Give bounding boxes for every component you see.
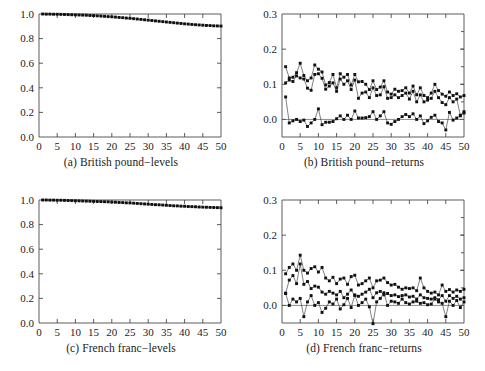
data-point-marker xyxy=(291,298,294,301)
data-point-marker xyxy=(433,114,436,117)
data-point-marker xyxy=(125,17,128,20)
data-point-marker xyxy=(448,288,451,291)
data-point-marker xyxy=(448,300,451,303)
data-point-marker xyxy=(313,118,316,121)
data-point-marker xyxy=(295,300,298,303)
data-point-marker xyxy=(361,80,364,83)
data-point-marker xyxy=(368,288,371,291)
data-point-marker xyxy=(121,201,124,204)
data-point-marker xyxy=(437,293,440,296)
data-point-marker xyxy=(321,266,324,269)
data-point-marker xyxy=(412,286,415,289)
axis-frame xyxy=(282,200,464,323)
data-point-marker xyxy=(423,301,426,304)
data-point-marker xyxy=(342,83,345,86)
data-point-marker xyxy=(216,206,219,209)
data-point-marker xyxy=(328,81,331,84)
data-point-marker xyxy=(364,91,367,94)
data-point-marker xyxy=(397,118,400,121)
data-point-marker xyxy=(310,121,313,124)
data-point-marker xyxy=(339,72,342,75)
data-point-marker xyxy=(317,107,320,110)
data-point-marker xyxy=(375,300,378,303)
data-point-marker xyxy=(317,271,320,274)
data-point-marker xyxy=(382,85,385,88)
data-point-marker xyxy=(353,110,356,113)
data-point-marker xyxy=(63,199,66,202)
data-point-marker xyxy=(408,296,411,299)
data-point-marker xyxy=(99,200,102,203)
data-point-marker xyxy=(350,88,353,91)
data-point-marker xyxy=(302,119,305,122)
data-point-marker xyxy=(52,13,55,16)
data-point-marker xyxy=(408,92,411,95)
data-point-marker xyxy=(430,92,433,95)
data-point-marker xyxy=(74,13,77,16)
plot-a: 051015202530354045500.00.20.40.60.81.0 xyxy=(0,0,242,158)
data-point-marker xyxy=(103,200,106,203)
data-point-marker xyxy=(368,115,371,118)
data-point-marker xyxy=(295,118,298,121)
data-point-marker xyxy=(150,203,153,206)
data-point-marker xyxy=(198,206,201,209)
data-point-marker xyxy=(401,115,404,118)
data-point-marker xyxy=(393,283,396,286)
data-point-marker xyxy=(220,206,223,209)
data-point-marker xyxy=(448,111,451,114)
data-point-marker xyxy=(372,296,375,299)
data-point-marker xyxy=(364,298,367,301)
data-point-marker xyxy=(81,14,84,17)
caption-c: (c) French franc−levels xyxy=(0,342,242,354)
data-point-marker xyxy=(299,120,302,123)
data-point-marker xyxy=(291,76,294,79)
data-point-marker xyxy=(288,304,291,307)
data-point-marker xyxy=(288,79,291,82)
data-point-marker xyxy=(332,81,335,84)
data-point-marker xyxy=(415,289,418,292)
data-point-marker xyxy=(393,300,396,303)
x-tick-label: 30 xyxy=(386,326,398,338)
data-point-marker xyxy=(448,294,451,297)
data-point-marker xyxy=(212,24,215,27)
x-tick-label: 40 xyxy=(422,140,434,152)
data-point-marker xyxy=(158,203,161,206)
data-point-marker xyxy=(382,79,385,82)
data-point-marker xyxy=(220,25,223,28)
data-point-marker xyxy=(176,204,179,207)
data-point-marker xyxy=(390,123,393,126)
data-point-marker xyxy=(143,18,146,21)
data-point-marker xyxy=(423,286,426,289)
data-point-marker xyxy=(430,292,433,295)
data-point-marker xyxy=(205,24,208,27)
data-point-marker xyxy=(198,24,201,27)
data-point-marker xyxy=(169,21,172,24)
data-point-marker xyxy=(335,298,338,301)
panel-b: 051015202530354045500.00.10.20.3 (b) Bri… xyxy=(243,0,485,185)
data-point-marker xyxy=(404,92,407,95)
data-point-marker xyxy=(187,205,190,208)
data-point-marker xyxy=(291,80,294,83)
data-point-marker xyxy=(419,277,422,280)
data-point-marker xyxy=(412,112,415,115)
data-point-marker xyxy=(408,98,411,101)
data-point-marker xyxy=(379,93,382,96)
y-tick-label: 0.3 xyxy=(263,194,277,206)
data-point-marker xyxy=(302,283,305,286)
data-point-marker xyxy=(288,266,291,269)
x-tick-label: 35 xyxy=(161,140,173,152)
data-point-marker xyxy=(180,22,183,25)
data-point-marker xyxy=(306,87,309,90)
data-point-marker xyxy=(423,122,426,125)
data-point-marker xyxy=(430,298,433,301)
data-point-marker xyxy=(339,307,342,310)
data-point-marker xyxy=(423,296,426,299)
data-point-marker xyxy=(350,306,353,309)
x-tick-label: 0 xyxy=(36,140,42,152)
data-point-marker xyxy=(386,91,389,94)
data-point-marker xyxy=(361,92,364,95)
data-point-marker xyxy=(299,62,302,65)
x-tick-label: 25 xyxy=(368,140,380,152)
data-point-marker xyxy=(299,263,302,266)
data-point-marker xyxy=(393,120,396,123)
caption-a: (a) British pound−levels xyxy=(0,156,242,168)
